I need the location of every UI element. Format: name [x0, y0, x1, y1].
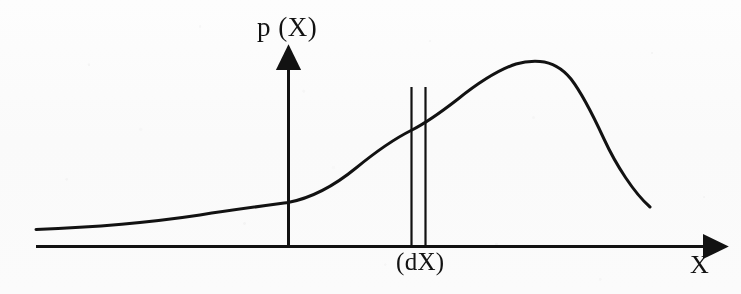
x-axis-label: X [690, 252, 709, 278]
y-axis-label: p (X) [257, 14, 317, 41]
figure-drawing [0, 0, 741, 294]
probability-density-figure: p (X) (dX) X [0, 0, 741, 294]
density-curve [36, 61, 650, 229]
dx-interval-label: (dX) [396, 249, 444, 274]
